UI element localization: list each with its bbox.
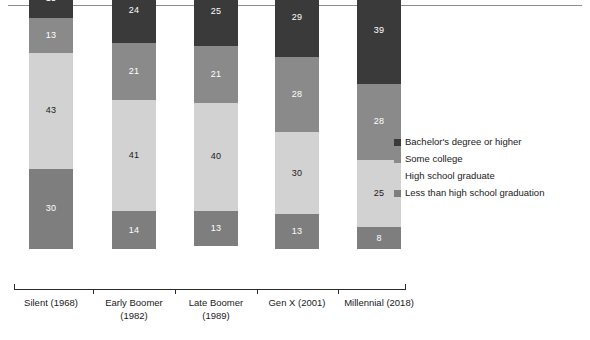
bar-3: 25214013 (194, 0, 238, 249)
x-axis-tick (93, 289, 94, 294)
bar-segment: 21 (194, 46, 238, 103)
bar-segment-value: 29 (292, 13, 302, 22)
legend-item-2[interactable]: Some college (394, 153, 584, 170)
bar-segment-value: 21 (129, 67, 139, 76)
bar-4: 29283013 (275, 0, 319, 249)
bar-segment: 13 (275, 214, 319, 249)
bar-segment-value: 13 (46, 31, 56, 40)
bar-segment: 40 (194, 103, 238, 211)
bar-segment: 21 (112, 43, 156, 100)
legend-swatch-icon (394, 139, 401, 146)
x-axis-left-cap (14, 284, 15, 290)
bar-segment: 30 (275, 132, 319, 213)
x-axis-tick (175, 289, 176, 294)
bar-segment: 14 (112, 211, 156, 249)
bar-segment: 43 (29, 53, 73, 168)
legend-swatch-icon (394, 156, 401, 163)
bar-segment-value: 13 (211, 224, 221, 233)
legend-label: Less than high school graduation (405, 187, 544, 199)
bar-segment: 28 (275, 57, 319, 133)
bar-5: 3928258 (357, 0, 401, 249)
category-label-5: Millennial (2018) (324, 297, 434, 310)
bar-segment-value: 25 (374, 189, 384, 198)
bar-segment-value: 43 (46, 106, 56, 115)
bar-segment-value: 30 (292, 169, 302, 178)
bar-segment-value: 24 (129, 6, 139, 15)
bar-segment: 13 (29, 18, 73, 53)
bar-segment-value: 13 (292, 227, 302, 236)
legend-label: Bachelor's degree or higher (405, 136, 521, 148)
legend-item-1[interactable]: Bachelor's degree or higher (394, 136, 584, 153)
plot-area: 151343302421411425214013292830133928258 (0, 0, 410, 300)
bar-segment-value: 41 (129, 151, 139, 160)
bar-1: 15134330 (29, 0, 73, 249)
bar-segment-value: 25 (211, 7, 221, 16)
bar-segment: 41 (112, 100, 156, 211)
bar-segment: 25 (194, 0, 238, 46)
bar-segment: 8 (357, 227, 401, 249)
bar-segment: 39 (357, 0, 401, 84)
legend-swatch-icon (394, 173, 401, 180)
x-axis-tick (338, 289, 339, 294)
bar-segment-value: 40 (211, 152, 221, 161)
bar-2: 24214114 (112, 0, 156, 249)
bar-segment: 24 (112, 0, 156, 43)
bar-segment-value: 8 (376, 234, 381, 243)
bar-segment-value: 28 (374, 117, 384, 126)
bar-segment-value: 28 (292, 90, 302, 99)
bar-segment: 13 (194, 211, 238, 246)
x-axis-line (14, 289, 405, 290)
x-axis-tick (257, 289, 258, 294)
legend-label: High school graduate (405, 170, 495, 182)
legend-item-4[interactable]: Less than high school graduation (394, 187, 584, 204)
legend-label: Some college (405, 153, 463, 165)
legend-item-3[interactable]: High school graduate (394, 170, 584, 187)
bar-segment-value: 21 (211, 70, 221, 79)
chart-legend: Bachelor's degree or higherSome collegeH… (394, 136, 584, 204)
bar-segment: 30 (29, 169, 73, 250)
bar-segment-value: 14 (129, 226, 139, 235)
stacked-bar-chart: 151343302421411425214013292830133928258 … (0, 0, 590, 340)
x-axis-right-cap (405, 284, 406, 290)
bar-segment: 29 (275, 0, 319, 57)
bar-segment-value: 15 (46, 0, 56, 3)
bar-segment-value: 39 (374, 26, 384, 35)
bar-segment-value: 30 (46, 204, 56, 213)
legend-swatch-icon (394, 190, 401, 197)
bar-segment: 15 (29, 0, 73, 18)
